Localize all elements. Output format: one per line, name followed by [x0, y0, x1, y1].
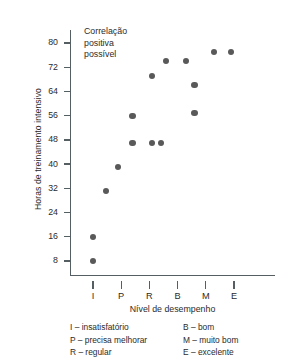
y-tick-mark: [64, 139, 70, 140]
correlation-annotation: Correlação positiva possível: [84, 26, 127, 61]
y-tick-label: 64: [32, 87, 58, 96]
x-tick-mark: [149, 281, 150, 289]
scatter-chart: Horas de treinamento intensivo 816243240…: [0, 0, 282, 362]
data-point: [90, 258, 96, 264]
x-tick-mark: [205, 281, 206, 289]
data-point: [158, 140, 164, 146]
y-tick-mark: [64, 212, 70, 213]
y-tick-mark: [64, 260, 70, 261]
x-tick-label-m: M: [196, 291, 216, 301]
data-point: [183, 58, 189, 64]
x-axis-line: [70, 275, 275, 276]
y-tick-label: 32: [32, 184, 58, 193]
y-tick-label: 72: [32, 63, 58, 72]
x-tick-label-p: P: [111, 291, 131, 301]
x-tick-mark: [92, 281, 93, 289]
data-point: [211, 49, 217, 55]
y-axis-title: Horas de treinamento intensivo: [33, 49, 43, 249]
y-tick-label: 24: [32, 208, 58, 217]
x-tick-label-i: I: [83, 291, 103, 301]
y-tick-mark: [64, 163, 70, 164]
data-point: [149, 73, 155, 79]
y-tick-label: 48: [32, 135, 58, 144]
legend-entry: I – insatisfatório: [70, 321, 147, 334]
data-point: [103, 188, 109, 194]
data-point: [228, 49, 234, 55]
legend-entry: R – regular: [70, 346, 147, 359]
legend-column-left: I – insatisfatórioP – precisa melhorarR …: [70, 321, 147, 359]
y-tick-label: 40: [32, 160, 58, 169]
data-point: [191, 82, 197, 88]
y-tick-mark: [64, 91, 70, 92]
data-point: [129, 140, 135, 146]
x-tick-label-e: E: [224, 291, 244, 301]
legend-entry: E – excelente: [183, 346, 238, 359]
x-axis-title: Nível de desempenho: [70, 304, 275, 314]
x-tick-mark: [233, 281, 234, 289]
legend-entry: M – muito bom: [183, 334, 238, 347]
data-point: [149, 140, 155, 146]
y-axis-line: [70, 30, 71, 276]
x-tick-label-r: R: [139, 291, 159, 301]
y-tick-label: 16: [32, 232, 58, 241]
x-tick-label-b: B: [168, 291, 188, 301]
legend-column-right: B – bomM – muito bomE – excelente: [183, 321, 238, 359]
y-tick-mark: [64, 115, 70, 116]
data-point: [163, 58, 169, 64]
x-tick-mark: [121, 281, 122, 289]
x-tick-mark: [177, 281, 178, 289]
data-point: [191, 110, 197, 116]
legend-entry: P – precisa melhorar: [70, 334, 147, 347]
data-point: [129, 113, 135, 119]
y-tick-mark: [64, 67, 70, 68]
data-point: [115, 164, 121, 170]
legend-entry: B – bom: [183, 321, 238, 334]
data-point: [90, 234, 96, 240]
y-tick-mark: [64, 236, 70, 237]
y-tick-label: 80: [32, 38, 58, 47]
y-tick-label: 8: [32, 256, 58, 265]
y-tick-mark: [64, 42, 70, 43]
y-tick-mark: [64, 188, 70, 189]
y-tick-label: 56: [32, 111, 58, 120]
